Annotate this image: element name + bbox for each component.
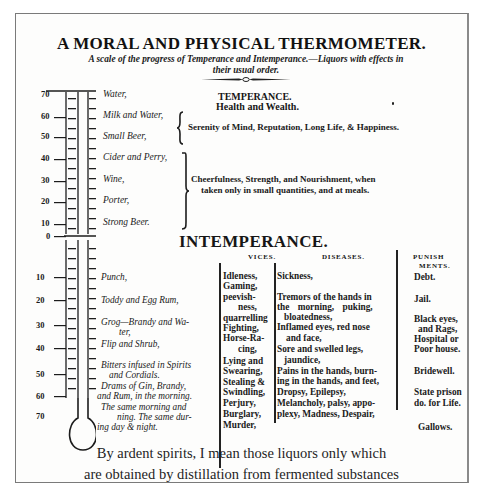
column-header-diseases: DISEASES. — [322, 253, 365, 261]
thermometer-icon — [36, 88, 96, 454]
subtitle-line-2: their usual order. — [213, 65, 279, 75]
punishment-item: State prison — [414, 387, 462, 398]
scale-value: 50 — [36, 369, 45, 379]
vice-item: Swindling, — [223, 387, 265, 398]
scale-value: 60 — [36, 391, 45, 401]
disease-item: Sore and swelled legs, — [277, 344, 363, 355]
subtitle-line-1: A scale of the progress of Temperance an… — [88, 54, 403, 64]
brace-icon — [176, 111, 186, 145]
disease-item: Melancholy, palsy, appo- — [277, 398, 375, 409]
vice-item: Gaming, — [223, 281, 257, 292]
vice-item: ness, — [238, 302, 257, 313]
vice-item: Lying and — [223, 356, 263, 367]
column-divider — [219, 263, 221, 468]
scale-value: 30 — [41, 175, 50, 185]
liquor-label: Milk and Water, — [103, 110, 163, 120]
column-header-vices: VICES. — [248, 253, 276, 261]
vice-item: Fighting, — [223, 323, 259, 334]
disease-item: Inflamed eyes, red nose — [277, 322, 370, 333]
liquor-label: Punch, — [101, 272, 127, 283]
document-subtitle: A scale of the progress of Temperance an… — [46, 54, 446, 76]
column-header-punishments: PUNISH — [413, 253, 444, 261]
punishment-item: Gallows. — [418, 422, 452, 433]
liquor-label: ing day & night. — [97, 422, 158, 433]
liquor-label: Toddy and Egg Rum, — [101, 295, 179, 306]
punishment-item: Black eyes, — [414, 314, 458, 325]
punishment-item: Hospital or — [414, 334, 459, 345]
effect-text: Cheerfulness, Strength, and Nourishment,… — [191, 174, 376, 184]
punishment-item: Debt. — [414, 272, 435, 283]
effect-text: taken only in small quantities, and at m… — [201, 185, 369, 195]
liquor-label: Small Beer, — [103, 131, 146, 141]
print-speck — [392, 102, 394, 105]
vice-item: Murder, — [223, 420, 256, 431]
scale-value: 0 — [46, 231, 50, 241]
document-title: A MORAL AND PHYSICAL THERMOMETER. — [16, 34, 467, 54]
vice-item: Swearing, — [223, 366, 263, 377]
liquor-label: Cider and Perry, — [103, 152, 167, 162]
vice-item: Horse-Ra- — [223, 333, 264, 344]
punishment-item: Bridewell. — [414, 366, 455, 377]
liquor-label: Water, — [103, 89, 127, 99]
effect-text: Serenity of Mind, Reputation, Long Life,… — [188, 122, 399, 132]
liquor-label: Drams of Gin, Brandy, — [101, 381, 186, 392]
disease-item: ing in the hands, and feet, — [277, 376, 379, 387]
vice-item: Perjury, — [223, 398, 256, 409]
intemperance-heading: INTEMPERANCE. — [179, 232, 328, 252]
disease-item: Tremors of the hands in — [277, 292, 372, 303]
scale-value: 10 — [36, 272, 45, 282]
liquor-label: ning. The same dur- — [117, 412, 192, 423]
vice-item: Idleness, — [223, 271, 257, 282]
scale-value: 40 — [36, 343, 45, 353]
scale-value: 20 — [36, 295, 45, 305]
document-page: A MORAL AND PHYSICAL THERMOMETER. A scal… — [15, 13, 469, 483]
column-divider — [274, 263, 276, 423]
vice-item: Burglary, — [223, 409, 261, 420]
vice-item: cing, — [238, 344, 257, 355]
liquor-label: Flip and Shrub, — [101, 339, 160, 350]
disease-item: jaundice, — [284, 355, 320, 366]
scale-value: 70 — [36, 411, 45, 421]
liquor-label: Grog—Brandy and Wa- — [101, 317, 189, 328]
scale-value: 30 — [36, 320, 45, 330]
liquor-label: Porter, — [103, 195, 129, 205]
temperance-top-effect: Health and Wealth. — [216, 101, 299, 112]
scale-value: 10 — [41, 218, 50, 228]
scale-value: 50 — [41, 131, 50, 141]
disease-item: the morning, puking, — [277, 302, 373, 313]
divider-ornament-icon — [201, 77, 291, 82]
vice-item: peevish- — [223, 292, 256, 303]
punishment-item: and Rags, — [418, 324, 457, 335]
disease-item: bloatedness, — [284, 312, 332, 323]
punishment-item: do. for Life. — [414, 398, 461, 409]
vice-item: Stealing & — [223, 377, 265, 388]
disease-item: plexy, Madness, Despair, — [277, 409, 375, 420]
scale-value: 60 — [41, 111, 50, 121]
scale-value: 20 — [41, 196, 50, 206]
liquor-label: ter, — [119, 327, 131, 338]
liquor-label: Wine, — [103, 174, 124, 184]
disease-item: Sickness, — [277, 271, 313, 282]
caption-line-1: By ardent spirits, I mean those liquors … — [16, 445, 467, 462]
disease-item: Dropsy, Epilepsy, — [277, 387, 346, 398]
disease-item: Pains in the hands, burn- — [277, 366, 377, 377]
liquor-label: and Rum, in the morning. — [97, 391, 192, 402]
caption-line-2: are obtained by distillation from fermen… — [16, 466, 467, 483]
punishment-item: Jail. — [414, 294, 431, 305]
liquor-label: Bitters infused in Spirits — [101, 360, 191, 371]
scale-value: 70 — [41, 89, 50, 99]
column-divider — [396, 250, 398, 410]
liquor-label: Strong Beer. — [103, 217, 150, 227]
brace-icon — [180, 152, 190, 230]
liquor-label: The same morning and — [101, 402, 186, 413]
scale-value: 40 — [41, 153, 50, 163]
column-header-punishments-cont: MENTS. — [419, 262, 450, 270]
disease-item: and face, — [286, 333, 322, 344]
liquor-label: and Cordials. — [109, 370, 160, 381]
vice-item: quarrelling — [223, 313, 268, 324]
punishment-item: Poor house. — [414, 344, 460, 355]
